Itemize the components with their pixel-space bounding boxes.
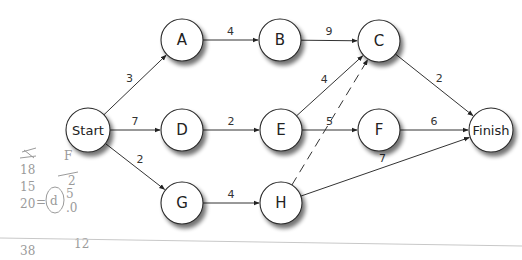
edge-c-finish <box>395 54 473 116</box>
edge-weight-e-f: 5 <box>326 115 333 128</box>
node-d: D <box>161 109 203 151</box>
node-label-a: A <box>177 31 188 49</box>
edge-start-g <box>105 143 164 189</box>
note-left-4: 38 <box>20 244 35 258</box>
node-label-h: H <box>275 194 286 212</box>
edge-b-c <box>301 40 357 41</box>
node-start: Start <box>66 108 110 152</box>
edge-weight-f-finish: 6 <box>431 115 438 128</box>
node-f: F <box>358 109 400 151</box>
note-left-1: 18 <box>20 163 35 177</box>
handwritten-notes: 18 15 20 38 = d F 2 5 .0 12 <box>20 148 89 258</box>
note-middle-header: F <box>64 149 72 163</box>
edge-weight-start-d: 7 <box>132 115 139 128</box>
node-label-finish: Finish <box>472 123 509 138</box>
note-left-2: 15 <box>20 180 35 194</box>
edge-weight-e-c: 4 <box>321 73 328 86</box>
edge-weight-g-h: 4 <box>228 188 235 201</box>
node-label-c: C <box>374 32 384 50</box>
edge-weight-c-finish: 2 <box>436 72 443 85</box>
node-h: H <box>260 182 302 224</box>
node-e: E <box>260 109 302 151</box>
node-g: G <box>161 182 203 224</box>
edge-weight-h-finish: 7 <box>379 152 386 165</box>
node-label-e: E <box>276 121 285 139</box>
edge-weight-start-g: 2 <box>136 153 143 166</box>
node-label-g: G <box>176 194 188 212</box>
node-label-d: D <box>176 121 188 139</box>
node-finish: Finish <box>469 108 513 152</box>
node-b: B <box>259 19 301 61</box>
edge-weight-d-e: 2 <box>228 115 235 128</box>
node-a: A <box>161 19 203 61</box>
note-middle-3: .0 <box>66 201 77 215</box>
node-label-f: F <box>375 121 384 139</box>
edge-weight-start-a: 3 <box>126 72 133 85</box>
node-label-b: B <box>275 31 285 49</box>
edge-weight-b-c: 9 <box>326 25 333 38</box>
note-equals: = <box>36 195 46 209</box>
note-middle-2: 5 <box>66 187 74 201</box>
edge-weight-a-b: 4 <box>227 25 234 38</box>
note-left-3: 20 <box>20 197 35 211</box>
edge-e-c <box>297 56 363 116</box>
node-label-start: Start <box>72 123 104 138</box>
network-diagram: 372492454267 StartABCDEFFinishGH 18 15 2… <box>0 0 522 260</box>
scribble-mark <box>20 148 36 158</box>
edge-start-a <box>104 55 166 115</box>
note-circled: d <box>50 194 58 208</box>
note-middle-1: 2 <box>68 174 76 188</box>
node-c: C <box>358 20 400 62</box>
